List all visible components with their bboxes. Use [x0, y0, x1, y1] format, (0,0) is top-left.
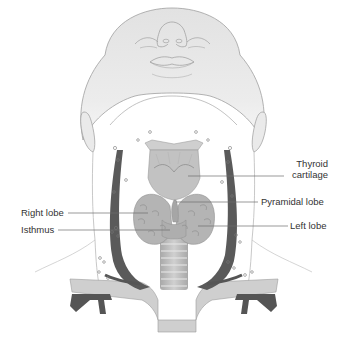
label-thyroid-cartilage-line2: cartilage — [284, 169, 328, 180]
pyramidal-lobe-shape — [172, 200, 179, 222]
label-left-lobe: Left lobe — [290, 220, 326, 231]
subclavian-vessels — [70, 294, 277, 314]
label-isthmus: Isthmus — [21, 224, 54, 235]
label-thyroid-cartilage: Thyroid cartilage — [284, 158, 328, 180]
thyroid-cartilage — [145, 140, 203, 200]
trachea — [160, 238, 188, 290]
isthmus-shape — [162, 220, 186, 239]
label-thyroid-cartilage-line1: Thyroid — [284, 158, 328, 169]
head — [81, 8, 264, 140]
thyroid-diagram: Thyroid cartilage Pyramidal lobe Left lo… — [0, 0, 347, 349]
label-right-lobe: Right lobe — [21, 207, 64, 218]
label-pyramidal-lobe: Pyramidal lobe — [261, 196, 324, 207]
